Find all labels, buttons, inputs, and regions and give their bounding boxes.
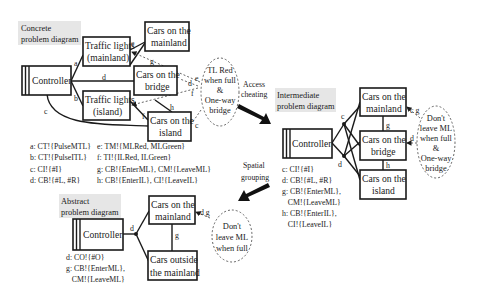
abs-legend-g: g: CB!{EnterML},: [66, 264, 125, 273]
cars-mainland-label: mainland: [151, 37, 187, 48]
cars-bridge-label: Cars on the: [136, 69, 180, 80]
requirement-text: bridge: [209, 106, 231, 115]
problem-diagram-figure: Concrete problem diagram Controller Traf…: [0, 0, 481, 298]
requirement-text: Don't: [223, 222, 242, 231]
int-edge-label-d: d: [338, 160, 342, 169]
edge-label-e: e: [131, 39, 135, 48]
abstract-edge-d-mainland: [136, 211, 149, 234]
concrete-legend-f: f: TI!{ILRed, ILGreen}: [97, 153, 171, 162]
edge-label-f-req: f: [191, 89, 194, 98]
junction-c: [342, 122, 346, 126]
requirement-text: leave ML: [216, 233, 248, 242]
concrete-legend-h: h: CB!{EnterIL}, CI!{LeaveIL}: [97, 176, 198, 185]
abs-edge-label-d: d: [130, 224, 134, 233]
abstract-diagram: Abstract problem diagram Controller Cars…: [59, 194, 252, 284]
intermediate-title: Intermediate: [277, 91, 320, 100]
int-cars-mainland-label: mainland: [366, 103, 402, 114]
tl-island-label: Traffic lights: [85, 94, 135, 105]
int-cars-bridge-label: Cars on the: [362, 134, 406, 145]
requirement-text: TL Red: [207, 66, 233, 75]
abs-edge-label-dg: d g: [200, 208, 210, 217]
abs-cars-mainland-label: mainland: [155, 211, 191, 222]
requirement-text: bridge: [425, 164, 447, 173]
abs-legend-d: d: CO!{#O}: [66, 253, 105, 262]
cars-bridge-label: bridge: [145, 81, 170, 92]
concrete-legend-g: g: CB!{EnterML}, CM!{LeaveML}: [97, 165, 211, 174]
requirement-text: &: [433, 144, 440, 153]
edge-d-to-mainland: [344, 102, 360, 156]
int-cars-island-label: island: [372, 185, 395, 196]
tl-island-label: (island): [93, 106, 122, 118]
abstract-title: problem diagram: [61, 208, 119, 217]
abstract-junction-d: [134, 232, 138, 236]
concrete-legend-a: a: CT!{PulseMTL}: [30, 142, 91, 151]
abs-legend-g-cont: CM!{LeaveML}: [66, 275, 125, 284]
edge-d-to-island: [344, 156, 360, 176]
edge-label-c-req: c: [195, 121, 199, 130]
cars-mainland-label: Cars on the: [147, 25, 191, 36]
edge-label-b: b: [74, 94, 78, 103]
tl-mainland-label: (mainland): [87, 52, 129, 64]
requirement-text: leave ML: [420, 124, 452, 133]
intermediate-title: problem diagram: [277, 102, 335, 111]
concrete-title: Concrete: [21, 24, 52, 33]
edge-label-h: h: [170, 103, 174, 112]
int-legend-g-cont: CM!{LeaveML}: [282, 198, 341, 207]
requirement-text: Don't: [427, 114, 446, 123]
spatial-grouping-transition: Spatial grouping: [238, 161, 270, 201]
access-cheating-transition: Access cheating: [237, 80, 271, 124]
spatial-grouping-arrow-icon: [238, 183, 270, 201]
concrete-legend-e: e: TM!{MLRed, MLGreen}: [97, 142, 185, 151]
concrete-legend-d: d: CB!{#L, #R}: [30, 176, 80, 185]
access-cheating-label: cheating: [241, 90, 268, 99]
edge-label-f: f: [142, 112, 145, 121]
edge-d-int: [332, 143, 344, 156]
cars-island-label: island: [159, 127, 182, 138]
requirement-text: when full: [204, 76, 237, 85]
int-legend-d: d: CB!{#L, #R}: [282, 176, 332, 185]
int-edge-label-c: c: [341, 112, 345, 121]
abstract-controller-label: Controller: [83, 229, 123, 240]
concrete-legend-c: c: CI!{#I}: [30, 165, 62, 174]
int-edge-label-h: h: [386, 161, 390, 170]
int-legend-c: c: CI!{#I}: [282, 165, 314, 174]
abs-edge-label-g: g: [175, 231, 179, 240]
spatial-grouping-label: grouping: [241, 173, 269, 182]
requirement-text: when full: [420, 134, 453, 143]
int-edge-label-cg: c g: [410, 106, 419, 115]
abs-cars-outside-label: the mainland: [150, 267, 200, 278]
int-edge-label-d-req: d: [410, 134, 414, 143]
intermediate-diagram: Intermediate problem diagram Controller …: [275, 88, 455, 229]
edge-c-int: [332, 124, 344, 143]
int-legend-g: g: CB!{EnterML},: [282, 187, 341, 196]
abstract-edge-d-outside: [136, 234, 149, 262]
access-cheating-arrow-icon: [237, 104, 271, 124]
requirement-text: One-way: [205, 96, 237, 105]
spatial-grouping-label: Spatial: [243, 161, 265, 170]
access-cheating-label: Access: [243, 80, 265, 89]
edge-label-e-req: e: [195, 74, 199, 83]
edge-label-g: g: [150, 57, 154, 66]
intermediate-controller-label: Controller: [292, 138, 332, 149]
edge-c-to-island: [344, 124, 360, 180]
concrete-diagram: Concrete problem diagram Controller Traf…: [18, 21, 239, 185]
requirement-text: when full: [216, 244, 249, 253]
cars-island-label: Cars on the: [150, 115, 194, 126]
edge-label-a: a: [74, 59, 78, 68]
tl-mainland-label: Traffic lights: [85, 40, 135, 51]
requirement-text: &: [217, 86, 224, 95]
edge-label-d: d: [102, 73, 106, 82]
abs-cars-outside-label: Cars outside: [150, 254, 198, 265]
concrete-legend-b: b: CT!{PulseITL}: [30, 153, 87, 162]
int-cars-bridge-label: bridge: [371, 146, 396, 157]
int-cars-island-label: Cars on the: [362, 173, 406, 184]
int-edge-label-g: g: [386, 121, 390, 130]
concrete-controller-label: Controller: [32, 75, 72, 86]
concrete-title: problem diagram: [21, 35, 79, 44]
edge-label-d-req: d: [188, 79, 192, 88]
abstract-title: Abstract: [61, 197, 90, 206]
abs-cars-mainland-label: Cars on the: [151, 199, 195, 210]
int-legend-h-cont: CI!{LeaveIL}: [282, 220, 332, 229]
int-legend-h: h: CB!{EnterIL},: [282, 209, 337, 218]
junction-d: [342, 154, 346, 158]
